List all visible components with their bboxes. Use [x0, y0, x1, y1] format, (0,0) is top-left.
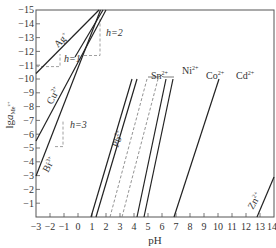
series-lines [36, 10, 274, 217]
y-ticks [36, 24, 40, 203]
svg-text:−10: −10 [18, 73, 34, 84]
line-cd [174, 79, 219, 217]
label-h1: h=1 [64, 53, 81, 64]
svg-text:11: 11 [227, 221, 237, 232]
label-ni: Ni2+ [182, 65, 199, 76]
svg-text:−5: −5 [23, 142, 34, 153]
line-bi [36, 10, 101, 176]
svg-text:9: 9 [202, 221, 207, 232]
guide-h1 [36, 54, 60, 67]
svg-text:10: 10 [213, 221, 223, 232]
svg-text:−9: −9 [23, 87, 34, 98]
svg-text:−7: −7 [23, 115, 34, 126]
label-cu: Cu2+ [44, 84, 62, 106]
svg-text:lgaMez+: lgaMez+ [3, 101, 16, 128]
y-tick-labels: −1 −2 −3 −4 −5 −6 −7 −8 −9 −10 −11 −12 −… [18, 4, 34, 208]
x-tick-labels: −3 −2 −1 0 1 2 3 4 5 6 7 8 9 10 11 12 13… [31, 221, 276, 232]
svg-text:−12: −12 [18, 46, 34, 57]
svg-text:8: 8 [188, 221, 193, 232]
line-zn [257, 177, 274, 217]
svg-text:−3: −3 [31, 221, 42, 232]
plot-frame [36, 10, 274, 217]
svg-text:3: 3 [118, 221, 123, 232]
line-dashed-b [122, 79, 158, 217]
svg-text:−1: −1 [59, 221, 70, 232]
svg-text:−11: −11 [19, 60, 34, 71]
svg-text:5: 5 [146, 221, 151, 232]
svg-text:0: 0 [76, 221, 81, 232]
svg-text:−13: −13 [18, 32, 34, 43]
svg-text:−3: −3 [23, 170, 34, 181]
x-axis-title: pH [148, 234, 162, 246]
svg-text:−4: −4 [23, 156, 34, 167]
svg-text:14: 14 [267, 221, 276, 232]
label-pb: Pb2+ [110, 128, 126, 148]
label-ag: Ag+ [52, 30, 71, 49]
label-h3: h=3 [70, 119, 87, 130]
svg-text:1: 1 [90, 221, 95, 232]
svg-text:−15: −15 [18, 4, 34, 15]
label-co: Co2+ [206, 70, 225, 81]
line-pb-a [91, 79, 132, 217]
label-h2: h=2 [106, 27, 123, 38]
svg-text:2: 2 [104, 221, 109, 232]
svg-text:−6: −6 [23, 129, 34, 140]
x-ticks [50, 213, 260, 217]
svg-text:12: 12 [241, 221, 251, 232]
svg-text:−14: −14 [18, 18, 34, 29]
svg-text:13: 13 [255, 221, 265, 232]
svg-text:7: 7 [174, 221, 179, 232]
svg-text:−1: −1 [23, 198, 34, 209]
svg-text:−2: −2 [45, 221, 56, 232]
label-cd: Cd2+ [236, 70, 255, 81]
svg-text:−8: −8 [23, 101, 34, 112]
pH-activity-chart: −3 −2 −1 0 1 2 3 4 5 6 7 8 9 10 11 12 13… [0, 0, 276, 248]
line-co-b [144, 79, 173, 217]
svg-text:6: 6 [160, 221, 165, 232]
svg-text:−2: −2 [23, 184, 34, 195]
line-hg [75, 10, 103, 57]
svg-text:4: 4 [132, 221, 137, 232]
y-axis-title: lgaMez+ [3, 101, 16, 128]
